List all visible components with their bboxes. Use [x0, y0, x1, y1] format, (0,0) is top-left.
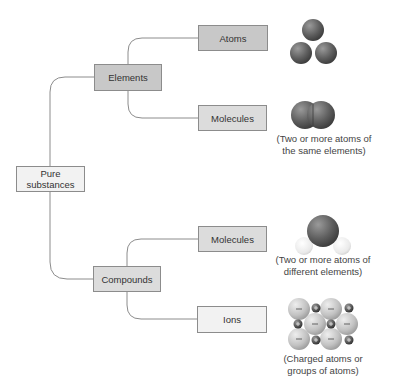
element-molecules-caption: (Two or more atoms of the same elements)	[264, 133, 384, 156]
caption-line: (Charged atoms or	[263, 353, 383, 365]
atoms-illustration	[290, 19, 337, 64]
compound-molecules-box: Molecules	[198, 226, 267, 252]
connector-elements-to-atoms	[128, 38, 198, 64]
caption-line: (Two or more atoms of	[263, 254, 383, 266]
ionic-lattice-illustration	[288, 298, 358, 350]
element-molecules-box: Molecules	[198, 105, 267, 131]
connector-compounds-to-ions	[127, 292, 197, 319]
connector-pure-to-elements	[50, 77, 94, 166]
caption-line: (Two or more atoms of	[264, 133, 384, 145]
pure-substances-label: Pure substances	[26, 168, 76, 190]
water-molecule-illustration	[295, 215, 351, 255]
atoms-box: Atoms	[198, 25, 268, 51]
ions-caption: (Charged atoms or groups of atoms)	[263, 353, 383, 376]
ions-box: Ions	[197, 306, 267, 333]
connector-elements-to-molecules	[128, 91, 198, 118]
compounds-box: Compounds	[93, 266, 161, 292]
compounds-label: Compounds	[101, 274, 152, 285]
atoms-label: Atoms	[220, 33, 247, 44]
elements-label: Elements	[108, 72, 148, 83]
diatomic-molecule-illustration	[291, 101, 335, 129]
compound-molecules-caption: (Two or more atoms of different elements…	[263, 254, 383, 277]
connector-pure-to-compounds	[50, 192, 93, 279]
caption-line: groups of atoms)	[263, 365, 383, 377]
caption-line: the same elements)	[264, 145, 384, 157]
element-molecules-label: Molecules	[211, 113, 254, 124]
elements-box: Elements	[94, 64, 162, 91]
pure-substances-box: Pure substances	[16, 166, 85, 192]
compound-molecules-label: Molecules	[211, 234, 254, 245]
ions-label: Ions	[223, 314, 241, 325]
caption-line: different elements)	[263, 266, 383, 278]
connector-compounds-to-molecules	[127, 239, 198, 266]
